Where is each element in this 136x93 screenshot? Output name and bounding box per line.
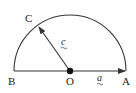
semicircle-diagram: C B O A c a [0, 0, 136, 93]
vector-label-c: c [61, 36, 66, 47]
point-label-b: B [8, 75, 15, 87]
point-label-a: A [122, 75, 130, 87]
point-label-o: O [66, 75, 74, 87]
point-label-c: C [25, 12, 32, 24]
vector-c-tilde-icon [61, 47, 67, 49]
vector-a-tilde-icon [97, 83, 103, 85]
center-point-o [67, 68, 73, 74]
vector-label-a: a [97, 72, 102, 83]
